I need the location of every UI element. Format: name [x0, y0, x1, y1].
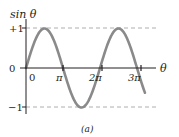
x-tick-zero: 0 — [29, 72, 35, 83]
y-tick-zero: 0 — [9, 63, 15, 74]
x-tick-2pi: 2π — [88, 72, 102, 83]
x-axis-label: θ — [160, 62, 167, 75]
x-tick-pi: π — [55, 72, 63, 83]
y-tick-minus-one: −1 — [8, 102, 23, 113]
sine-graph: sin θ +1 0 −1 0 π 2π 3π θ (a) — [0, 0, 179, 137]
y-axis-label: sin θ — [10, 8, 37, 21]
y-tick-plus-one: +1 — [9, 23, 24, 34]
x-tick-3pi: 3π — [128, 72, 141, 83]
figure-caption: (a) — [81, 124, 94, 134]
